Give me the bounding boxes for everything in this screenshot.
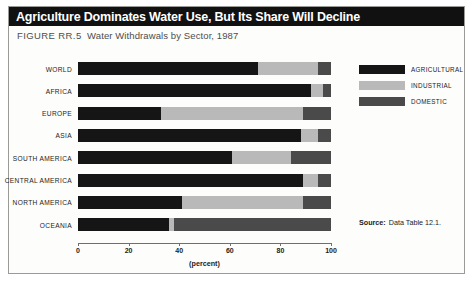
- chart-plot-area: WORLDAFRICAEUROPEASIASOUTH AMERICACENTRA…: [78, 62, 331, 238]
- legend-swatch-industrial: [359, 81, 405, 90]
- x-axis-title: (percent): [78, 259, 331, 268]
- bar-segment-agricultural: [78, 62, 258, 75]
- category-label: OCEANIA: [40, 221, 72, 228]
- figure-id: FIGURE RR.5: [17, 30, 82, 41]
- bar-segment-industrial: [232, 151, 290, 164]
- bar-segment-domestic: [303, 196, 331, 209]
- category-label: EUROPE: [42, 110, 72, 117]
- bar-segment-industrial: [182, 196, 303, 209]
- figure-title-bar: Agriculture Dominates Water Use, But Its…: [9, 7, 464, 26]
- figure-container: Agriculture Dominates Water Use, But Its…: [0, 0, 473, 282]
- legend-item: DOMESTIC: [359, 95, 463, 108]
- bar-segment-domestic: [318, 62, 331, 75]
- bar-segment-domestic: [291, 151, 331, 164]
- bar-row: ASIA: [78, 129, 331, 142]
- legend-label: AGRICULTURAL: [411, 66, 463, 73]
- bar-row: SOUTH AMERICA: [78, 151, 331, 164]
- bar-segment-industrial: [303, 174, 318, 187]
- bar-segment-industrial: [258, 62, 319, 75]
- x-tick: [280, 243, 281, 246]
- legend-item: INDUSTRIAL: [359, 79, 463, 92]
- category-label: WORLD: [46, 65, 72, 72]
- x-tick: [179, 243, 180, 246]
- legend-label: DOMESTIC: [411, 98, 447, 105]
- category-label: NORTH AMERICA: [13, 199, 72, 206]
- bar-segment-industrial: [301, 129, 319, 142]
- bar-segment-industrial: [311, 84, 324, 97]
- bar-row: WORLD: [78, 62, 331, 75]
- bar-segment-agricultural: [78, 174, 303, 187]
- source-note: Source:Data Table 12.1.: [359, 218, 441, 227]
- category-label: CENTRAL AMERICA: [5, 177, 72, 184]
- bar-segment-domestic: [323, 84, 331, 97]
- category-label: SOUTH AMERICA: [13, 154, 72, 161]
- figure-subtitle-text: Water Withdrawals by Sector, 1987: [87, 30, 238, 41]
- legend-item: AGRICULTURAL: [359, 63, 463, 76]
- bar-row: NORTH AMERICA: [78, 196, 331, 209]
- x-tick-label: 40: [175, 247, 183, 254]
- x-tick: [129, 243, 130, 246]
- bar-segment-domestic: [318, 174, 331, 187]
- bar-segment-industrial: [161, 107, 303, 120]
- bar-row: AFRICA: [78, 84, 331, 97]
- source-label: Source:: [359, 218, 386, 227]
- bar-segment-agricultural: [78, 218, 169, 231]
- bar-segment-domestic: [174, 218, 331, 231]
- bar-segment-agricultural: [78, 129, 301, 142]
- category-label: ASIA: [56, 132, 72, 139]
- x-axis-line: [78, 243, 331, 244]
- figure-subtitle: FIGURE RR.5 Water Withdrawals by Sector,…: [17, 30, 238, 41]
- x-tick: [331, 243, 332, 246]
- legend-label: INDUSTRIAL: [411, 82, 452, 89]
- page-title: Agriculture Dominates Water Use, But Its…: [9, 10, 360, 24]
- bar-segment-domestic: [303, 107, 331, 120]
- bar-segment-domestic: [318, 129, 331, 142]
- bar-segment-agricultural: [78, 196, 182, 209]
- chart-legend: AGRICULTURALINDUSTRIALDOMESTIC: [359, 63, 463, 111]
- bar-segment-agricultural: [78, 84, 311, 97]
- bar-row: EUROPE: [78, 107, 331, 120]
- x-tick: [230, 243, 231, 246]
- bar-segment-agricultural: [78, 151, 232, 164]
- x-tick-label: 100: [325, 247, 337, 254]
- x-tick-label: 20: [125, 247, 133, 254]
- bar-row: CENTRAL AMERICA: [78, 174, 331, 187]
- bar-row: OCEANIA: [78, 218, 331, 231]
- x-tick-label: 60: [226, 247, 234, 254]
- x-tick-label: 80: [276, 247, 284, 254]
- x-tick-label: 0: [76, 247, 80, 254]
- legend-swatch-domestic: [359, 97, 405, 106]
- x-tick: [78, 243, 79, 246]
- bar-segment-agricultural: [78, 107, 161, 120]
- legend-swatch-agricultural: [359, 65, 405, 74]
- category-label: AFRICA: [46, 87, 72, 94]
- source-value: Data Table 12.1.: [389, 218, 441, 227]
